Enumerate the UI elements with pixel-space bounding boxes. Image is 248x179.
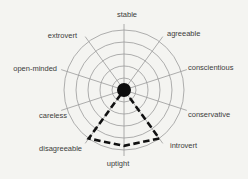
screenshot-root: stableagreeableconscientiousconservative… — [0, 0, 248, 179]
axis-label-extrovert: extrovert — [48, 31, 78, 40]
axis-label-stable: stable — [117, 10, 137, 19]
axis-label-open-minded: open-minded — [13, 64, 57, 73]
personality-radar-chart: stableagreeableconscientiousconservative… — [0, 0, 248, 179]
radar-chart-svg: stableagreeableconscientiousconservative… — [0, 0, 248, 179]
axis-label-introvert: introvert — [170, 141, 198, 150]
axis-label-disagreeable: disagreeable — [39, 144, 82, 153]
axis-label-uptight: uptight — [107, 159, 130, 168]
axis-spoke-extrovert — [85, 37, 124, 90]
axis-label-careless: careless — [39, 111, 67, 120]
axis-label-conscientious: conscientious — [188, 63, 234, 72]
center-dot — [117, 83, 131, 97]
axis-spoke-agreeable — [124, 37, 163, 90]
axis-label-conservative: conservative — [188, 110, 230, 119]
axis-label-agreeable: agreeable — [167, 29, 200, 38]
